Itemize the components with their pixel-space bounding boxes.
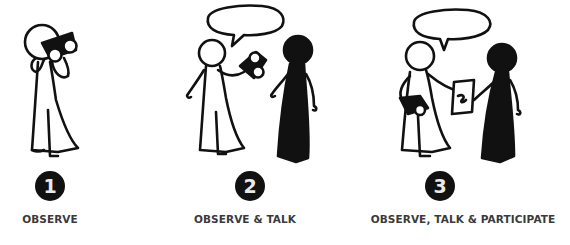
figure-dark-person-2 — [271, 36, 316, 162]
figure-dark-person-3 — [474, 44, 520, 162]
step-3-label: OBSERVE, TALK & PARTICIPATE — [371, 213, 556, 225]
step-3-badge: 3 — [425, 171, 455, 201]
step-2-label: OBSERVE & TALK — [194, 213, 296, 225]
figure-observer-1 — [25, 25, 78, 156]
illustration — [0, 0, 570, 245]
figure-observer-2 — [187, 40, 266, 154]
step-1-label: OBSERVE — [22, 213, 78, 225]
step-2-badge: 2 — [235, 171, 265, 201]
step-1-badge: 1 — [35, 171, 65, 201]
speech-bubble-2 — [208, 6, 284, 47]
figure-observer-3 — [400, 42, 474, 156]
